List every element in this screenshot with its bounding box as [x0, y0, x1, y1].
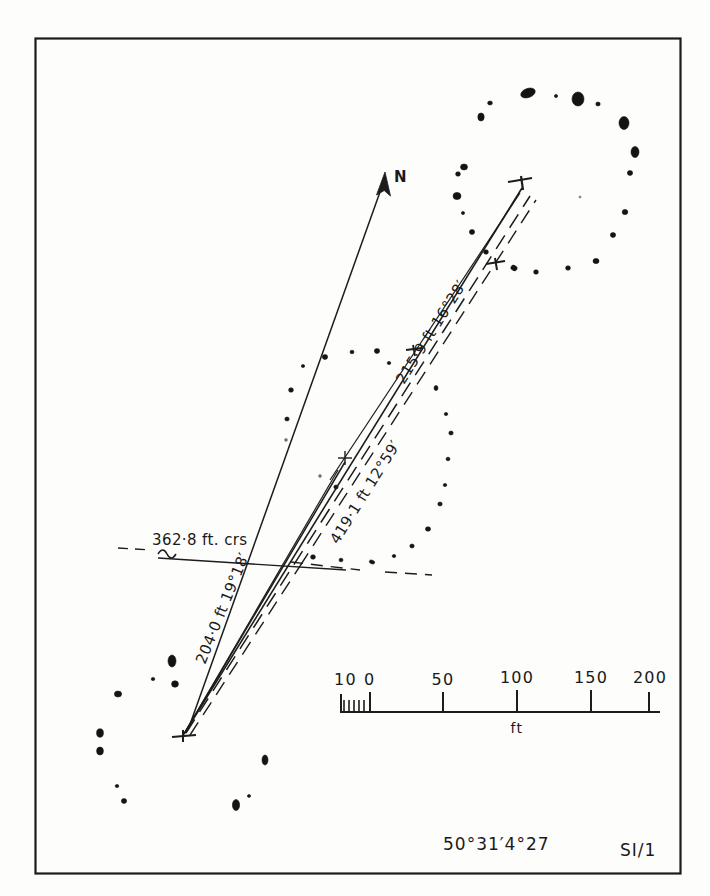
stone-circle-north	[453, 86, 639, 274]
survey-plan-page: N	[0, 0, 710, 896]
drawing-frame	[36, 39, 681, 874]
dimension-label-204: 204·0 ft 19°18′	[192, 550, 253, 667]
scale-tick-label-150: 150	[574, 668, 608, 687]
scale-tick-label-0: 0	[364, 670, 375, 689]
scale-unit-label: ft	[510, 720, 523, 736]
crs-leader-line	[158, 550, 346, 570]
stone-circle-centre	[285, 349, 454, 565]
survey-plan-drawing: N	[0, 0, 710, 896]
centre-cross-marker	[338, 451, 352, 465]
traverse-lines-dashed	[118, 196, 536, 735]
scale-tick-label-100: 100	[500, 668, 534, 687]
scale-bar: 10 0 50 100 150 200 ft	[334, 668, 667, 736]
scale-tick-label-200: 200	[633, 668, 667, 687]
north-arrow-label: N	[394, 168, 407, 186]
station-marker-north	[508, 176, 532, 190]
sheet-reference-label: SI/1	[620, 840, 656, 860]
dimension-label-215: 215·9 ft 16°28′	[392, 277, 470, 387]
scale-tick-label-10: 10	[334, 670, 357, 689]
scale-tick-label-50: 50	[432, 670, 455, 689]
dimension-label-362: 362·8 ft. crs	[152, 531, 248, 549]
traverse-lines-solid	[172, 188, 522, 742]
grid-reference-label: 50°31′4°27	[443, 834, 550, 854]
